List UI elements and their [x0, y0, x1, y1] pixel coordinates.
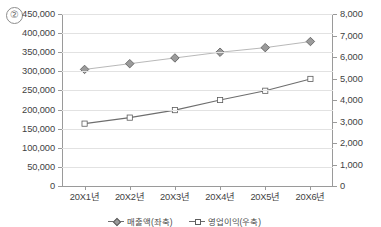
- right-axis-tick-label: 7,000: [340, 31, 363, 41]
- chart-legend: 매출액(좌축)영업이익(우축): [108, 215, 261, 227]
- left-axis-tick: [58, 14, 62, 15]
- left-axis-tick-label: 50,000: [27, 162, 55, 172]
- x-axis-tick-label: 20X2년: [115, 189, 145, 203]
- data-point-marker: [80, 65, 88, 73]
- right-axis-tick-label: 8,000: [340, 9, 363, 19]
- legend-label: 영업이익(우축): [208, 215, 262, 227]
- left-axis-tick: [58, 129, 62, 130]
- data-point-marker: [261, 43, 269, 51]
- right-axis-tick-label: 2,000: [340, 138, 363, 148]
- series-layer: [62, 14, 333, 186]
- left-axis-tick: [58, 90, 62, 91]
- right-axis-tick: [333, 143, 337, 144]
- gridline: [62, 90, 333, 91]
- x-axis-tick-label: 20X5년: [250, 189, 280, 203]
- x-axis-tick-label: 20X4년: [205, 189, 235, 203]
- legend-item: 매출액(좌축): [108, 215, 173, 227]
- legend-item: 영업이익(우축): [189, 215, 262, 227]
- right-axis-tick: [333, 100, 337, 101]
- left-axis-tick: [58, 148, 62, 149]
- data-point-marker: [82, 121, 87, 126]
- data-point-marker: [217, 97, 222, 102]
- gridline: [62, 71, 333, 72]
- right-axis-tick-label: 1,000: [340, 160, 363, 170]
- x-axis-tick-label: 20X3년: [160, 189, 190, 203]
- gridline: [62, 33, 333, 34]
- left-axis-tick: [58, 52, 62, 53]
- chart-figure: ② 450,000400,000350,000300,000250,000200…: [0, 0, 381, 227]
- gridline: [62, 129, 333, 130]
- left-axis-tick-label: 250,000: [22, 85, 55, 95]
- right-axis-tick: [333, 36, 337, 37]
- plot-area: 450,000400,000350,000300,000250,000200,0…: [62, 14, 333, 186]
- x-axis-tick-label: 20X1년: [70, 189, 100, 203]
- left-axis-tick-label: 200,000: [22, 105, 55, 115]
- series-line: [85, 42, 311, 70]
- left-axis-tick-label: 150,000: [22, 124, 55, 134]
- left-axis-tick: [58, 71, 62, 72]
- left-axis-tick: [58, 33, 62, 34]
- figure-number-badge: ②: [6, 7, 23, 24]
- left-axis-tick-label: 350,000: [22, 47, 55, 57]
- right-axis-tick-label: 4,000: [340, 95, 363, 105]
- gridline: [62, 186, 333, 187]
- right-axis-tick: [333, 186, 337, 187]
- right-axis-tick: [333, 122, 337, 123]
- series-line: [85, 79, 311, 124]
- right-axis-tick-label: 6,000: [340, 52, 363, 62]
- gridline: [62, 110, 333, 111]
- right-axis-tick: [333, 165, 337, 166]
- left-axis-tick-label: 400,000: [22, 28, 55, 38]
- data-point-marker: [127, 115, 132, 120]
- gridline: [62, 52, 333, 53]
- left-axis-tick: [58, 110, 62, 111]
- left-axis-tick-label: 450,000: [22, 9, 55, 19]
- gridline: [62, 148, 333, 149]
- left-axis-tick-label: 100,000: [22, 143, 55, 153]
- right-axis-tick: [333, 79, 337, 80]
- left-axis-tick-label: 300,000: [22, 66, 55, 76]
- data-point-marker: [306, 37, 314, 45]
- right-axis-tick-label: 5,000: [340, 74, 363, 84]
- data-point-marker: [126, 59, 134, 67]
- gridline: [62, 167, 333, 168]
- left-axis-tick: [58, 167, 62, 168]
- square-marker-icon: [189, 221, 205, 222]
- left-axis-tick: [58, 186, 62, 187]
- diamond-marker-icon: [108, 221, 124, 222]
- right-axis-tick-label: 3,000: [340, 117, 363, 127]
- legend-label: 매출액(좌축): [127, 215, 173, 227]
- left-axis-tick-label: 0: [50, 181, 55, 191]
- data-point-marker: [308, 76, 313, 81]
- x-axis-tick-label: 20X6년: [296, 189, 326, 203]
- right-axis-tick-label: 0: [340, 181, 345, 191]
- right-axis-tick: [333, 14, 337, 15]
- data-point-marker: [171, 54, 179, 62]
- gridline: [62, 14, 333, 15]
- right-axis-tick: [333, 57, 337, 58]
